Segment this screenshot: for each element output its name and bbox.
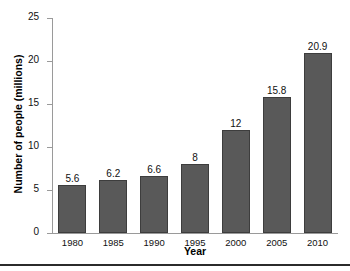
y-axis-tick-label: 0 [15,226,39,237]
bar: 8 [181,164,209,233]
plot-area: 0510152025 5.66.26.681215.820.9 19801985… [52,18,338,233]
bar: 6.2 [99,180,127,233]
bar-value-label: 20.9 [308,41,327,52]
bar: 15.8 [263,97,291,233]
bar: 12 [222,130,250,233]
y-axis-tick-label: 25 [15,11,39,22]
bar-value-label: 8 [192,152,198,163]
y-axis-tick-label: 10 [15,140,39,151]
bar-value-label: 6.6 [147,164,161,175]
y-axis-tick-label: 5 [15,183,39,194]
bars-layer: 5.66.26.681215.820.9 [52,18,338,233]
y-axis-title: Number of people (millions) [12,14,24,234]
bar: 5.6 [58,185,86,233]
x-axis-title: Year [52,245,338,257]
bottom-divider-rule [0,264,350,266]
bar-value-label: 5.6 [65,173,79,184]
bar-chart: Number of people (millions) 0510152025 5… [0,0,350,271]
bar: 20.9 [304,53,332,233]
bar: 6.6 [140,176,168,233]
y-axis-tick-label: 15 [15,97,39,108]
y-axis-tick-label: 20 [15,54,39,65]
bar-value-label: 15.8 [267,85,286,96]
bar-value-label: 6.2 [106,168,120,179]
bar-value-label: 12 [230,118,241,129]
y-axis-tick: 0 [47,233,52,234]
x-axis-line [52,233,338,234]
